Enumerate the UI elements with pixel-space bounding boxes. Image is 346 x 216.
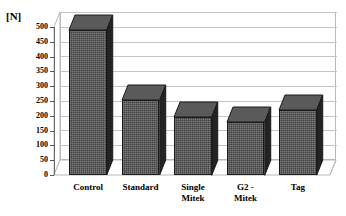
x-axis-labels: ControlStandardSingleMitekG2 -MitekTag <box>0 176 346 216</box>
y-axis-tick-label: 300 <box>2 81 48 90</box>
bar-tag <box>279 95 317 175</box>
y-axis-tick <box>50 101 54 102</box>
bar-chart: [N] 050100150200250300350400450500 Contr… <box>0 0 346 216</box>
y-axis-tick <box>50 71 54 72</box>
y-axis-tick-label: 250 <box>2 96 48 105</box>
y-axis-tick-label: 50 <box>2 155 48 164</box>
bar-front-face <box>174 117 212 175</box>
y-axis-tick <box>50 131 54 132</box>
plot-area: 050100150200250300350400450500 ControlSt… <box>0 0 346 216</box>
bar-front-face <box>227 122 265 175</box>
y-axis-tick-label: 200 <box>2 111 48 120</box>
x-axis-label: Tag <box>258 182 338 193</box>
y-axis-tick <box>50 27 54 28</box>
bar-standard <box>122 85 160 175</box>
bar-g2-mitek <box>227 107 265 175</box>
y-axis-tick-label: 150 <box>2 126 48 135</box>
y-axis-tick-label: 450 <box>2 37 48 46</box>
gridline <box>60 12 337 13</box>
y-axis-tick <box>50 42 54 43</box>
y-axis-tick-label: 400 <box>2 52 48 61</box>
y-axis-tick-label: 500 <box>2 22 48 31</box>
y-axis-line <box>54 27 55 175</box>
bar-front-face <box>69 30 107 175</box>
y-axis-tick-label: 350 <box>2 66 48 75</box>
bar-front-face <box>122 100 160 175</box>
y-axis-tick <box>50 145 54 146</box>
x-axis-label-line: Mitek <box>205 193 285 204</box>
y-axis-tick <box>50 116 54 117</box>
y-axis-tick <box>50 160 54 161</box>
y-axis-tick <box>50 57 54 58</box>
y-axis-tick <box>50 86 54 87</box>
bar-control <box>69 15 107 175</box>
bar-front-face <box>279 110 317 175</box>
x-axis-label-line: Tag <box>258 182 338 193</box>
bar-single-mitek <box>174 102 212 175</box>
y-axis-tick-label: 100 <box>2 140 48 149</box>
